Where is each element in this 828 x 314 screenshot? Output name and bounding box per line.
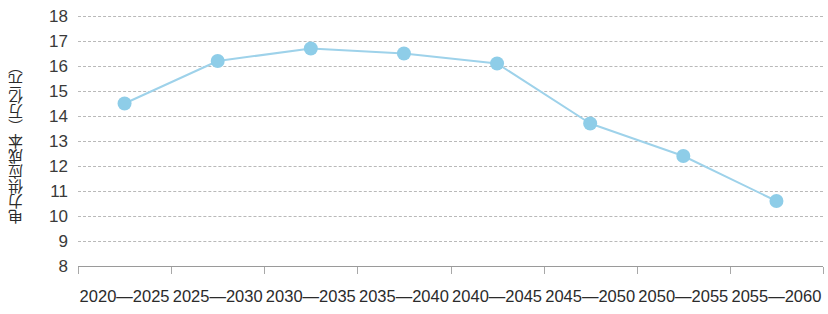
x-axis-tickmark: [264, 267, 265, 274]
data-point-marker: [769, 194, 783, 208]
data-point-marker: [676, 149, 690, 163]
data-point-marker: [118, 97, 132, 111]
y-axis-tick-label: 14: [49, 108, 68, 125]
x-axis-tick-label: 2020—2025: [80, 288, 170, 305]
data-point-marker: [583, 117, 597, 131]
y-axis-tick-label: 8: [59, 258, 68, 275]
data-point-marker: [211, 54, 225, 68]
x-axis-tick-label: 2025—2030: [173, 288, 263, 305]
y-axis-tick-label: 16: [49, 58, 68, 75]
data-point-marker: [304, 42, 318, 56]
y-axis-title: 电力供应成本（万亿元）: [2, 0, 28, 282]
x-axis-tickmark: [823, 267, 824, 274]
data-point-marker: [397, 47, 411, 61]
y-axis-tick-label: 11: [50, 183, 68, 200]
x-axis-tickmark: [730, 267, 731, 274]
y-axis-tick-label: 9: [59, 233, 68, 250]
line-chart: 电力供应成本（万亿元） 18171615141312111098 2020—20…: [0, 0, 828, 314]
x-axis-tick-label: 2035—2040: [359, 288, 449, 305]
x-axis-tick-label: 2055—2060: [731, 288, 821, 305]
x-axis-tick-label: 2040—2045: [452, 288, 542, 305]
plot-area: [78, 16, 823, 266]
x-axis-tickmark: [451, 267, 452, 274]
y-axis-tick-labels: 18171615141312111098: [30, 0, 74, 282]
x-axis-tick-label: 2050—2055: [638, 288, 728, 305]
x-axis-tick-label: 2030—2035: [266, 288, 356, 305]
x-axis-tickmark: [357, 267, 358, 274]
y-axis-tick-label: 10: [49, 208, 68, 225]
y-axis-tick-label: 17: [49, 33, 68, 50]
y-axis-title-text: 电力供应成本（万亿元）: [8, 59, 23, 224]
x-axis-tickmark: [171, 267, 172, 274]
y-axis-tick-label: 18: [49, 8, 68, 25]
data-point-marker: [490, 57, 504, 71]
series-line: [125, 49, 777, 202]
x-axis-tick-labels: 2020—20252025—20302030—20352035—20402040…: [78, 282, 823, 314]
x-axis-tick-label: 2045—2050: [545, 288, 635, 305]
y-axis-tick-label: 13: [49, 133, 68, 150]
x-axis-tickmark: [78, 267, 79, 274]
y-axis-tick-label: 12: [49, 158, 68, 175]
y-axis-tick-label: 15: [49, 83, 68, 100]
data-series: [78, 16, 823, 266]
x-axis-tickmark: [637, 267, 638, 274]
x-axis-tickmark: [544, 267, 545, 274]
